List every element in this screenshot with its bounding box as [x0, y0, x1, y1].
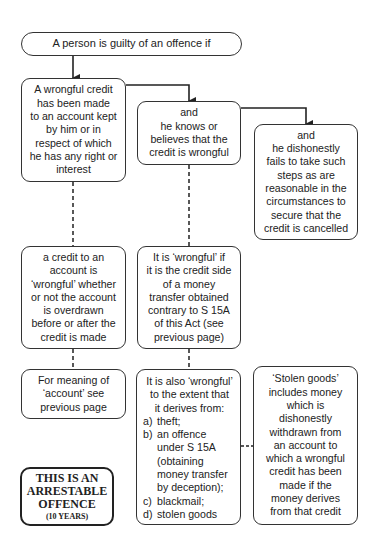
header-text: A person is guilty of an offence if [26, 37, 237, 50]
text-line: before or after the [26, 317, 121, 330]
text-line: he has any right or [26, 150, 121, 163]
arrestable-offence-badge: THIS IS AN ARRESTABLE OFFENCE (10 YEARS) [20, 467, 114, 526]
text-line: it derives from: [143, 402, 236, 415]
text-line: by him or in [26, 123, 121, 136]
text-line: contrary to S 15A [142, 304, 236, 317]
text-line: It is ‘wrongful’ if [142, 251, 236, 264]
text-line: steps as are [259, 169, 353, 182]
list-item-s15a: b) an offence under S 15A (obtaining mon… [143, 428, 236, 494]
text-line: stolen goods [157, 508, 217, 521]
text-line: (obtaining [157, 455, 228, 468]
text-line: credit is made [26, 331, 121, 344]
text-line: secure that the [259, 209, 353, 222]
list-label: a) [143, 415, 157, 428]
text-line: previous page [26, 401, 121, 414]
text-line: includes money [258, 386, 353, 399]
text-line: respect of which [26, 137, 121, 150]
text-line: A wrongful credit [26, 83, 121, 96]
text-line: an account to [258, 439, 353, 452]
list-label: c) [143, 495, 157, 508]
text-line: to the extent that [143, 388, 236, 401]
text-line: of this Act (see [142, 317, 236, 330]
text-line: and [142, 106, 236, 119]
account-meaning-box: For meaning of ‘account’ see previous pa… [21, 369, 126, 419]
text-line: account is [26, 264, 121, 277]
text-line: For meaning of [26, 374, 121, 387]
text-line: believes that the [142, 133, 236, 146]
text-line: ARRESTABLE [26, 485, 108, 498]
penalty-text: (10 YEARS) [26, 511, 108, 522]
text-line: THIS IS AN [26, 472, 108, 485]
text-line: is overdrawn [26, 304, 121, 317]
text-line: fails to take such [259, 155, 353, 168]
text-line: withdrawn from [258, 426, 353, 439]
text-line: ‘wrongful’ whether [26, 278, 121, 291]
arrow-to-knows-wrongful [126, 85, 189, 101]
text-line: reasonable in the [259, 182, 353, 195]
text-line: and [259, 129, 353, 142]
list-item-blackmail: c) blackmail; [143, 495, 236, 508]
text-line: to an account kept [26, 110, 121, 123]
text-line: which is [258, 399, 353, 412]
text-line: money derives [258, 492, 353, 505]
text-line: it is the credit side [142, 264, 236, 277]
list-label: d) [143, 508, 157, 521]
list-label: b) [143, 428, 157, 494]
text-line: dishonestly [258, 412, 353, 425]
guilty-offence-header-box: A person is guilty of an offence if [21, 32, 242, 56]
also-wrongful-box: It is also ‘wrongful’ to the extent that… [136, 369, 241, 525]
text-line: money transfer [157, 468, 228, 481]
text-line: ‘account’ see [26, 387, 121, 400]
text-line: ‘Stolen goods’ [258, 372, 353, 385]
arrow-to-fails-to-cancel [241, 108, 306, 124]
overdrawn-note-box: a credit to an account is ‘wrongful’ whe… [21, 246, 126, 349]
text-line: has been made [26, 97, 121, 110]
text-line: interest [26, 163, 121, 176]
fails-to-cancel-box: and he dishonestly fails to take such st… [254, 124, 358, 240]
list-item-theft: a) theft; [143, 415, 236, 428]
list-item-stolen-goods: d) stolen goods [143, 508, 236, 521]
text-line: of a money [142, 278, 236, 291]
text-line: previous page) [142, 331, 236, 344]
text-line: credit is wrongful [142, 146, 236, 159]
text-line: OFFENCE [26, 498, 108, 511]
text-line: theft; [157, 415, 181, 428]
text-line: from that credit [258, 505, 353, 518]
text-line: It is also ‘wrongful’ [143, 375, 236, 388]
text-line: circumstances to [259, 195, 353, 208]
text-line: an offence [157, 428, 228, 441]
text-line: under S 15A [157, 441, 228, 454]
text-line: a credit to an [26, 251, 121, 264]
knows-wrongful-box: and he knows or believes that the credit… [137, 101, 241, 165]
text-line: which a wrongful [258, 452, 353, 465]
text-line: credit has been [258, 465, 353, 478]
text-line: transfer obtained [142, 291, 236, 304]
text-line: he knows or [142, 120, 236, 133]
wrongful-credit-box: A wrongful credit has been made to an ac… [21, 78, 126, 182]
text-line: blackmail; [157, 495, 204, 508]
s15a-note-box: It is ‘wrongful’ if it is the credit sid… [137, 246, 241, 349]
text-line: credit is cancelled [259, 222, 353, 235]
text-line: by deception); [157, 481, 228, 494]
text-line: he dishonestly [259, 142, 353, 155]
text-line: made if the [258, 479, 353, 492]
stolen-goods-box: ‘Stolen goods’ includes money which is d… [253, 366, 358, 525]
text-line: or not the account [26, 291, 121, 304]
